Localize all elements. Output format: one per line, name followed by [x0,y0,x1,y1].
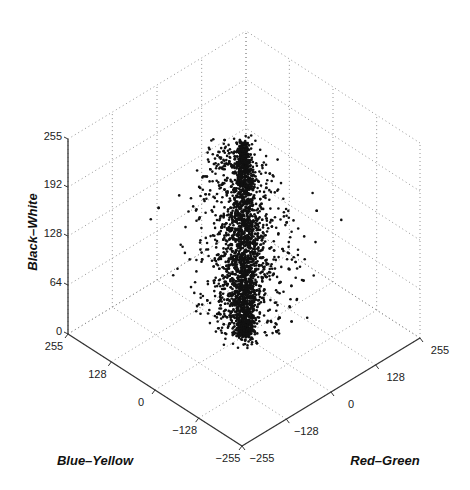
x-tick [376,365,379,369]
z-tick-label: 255 [44,130,62,142]
y-tick [65,334,68,338]
y-axis-label: Blue–Yellow [57,453,134,468]
x-tick-label: 0 [348,398,354,410]
x-tick [331,392,334,396]
z-tick-label: 64 [50,276,62,288]
z-tick-label: 192 [44,178,62,190]
y-tick [196,418,199,422]
y-tick-label: −255 [216,452,241,464]
x-tick [420,338,423,342]
x-axis-label: Red–Green [350,453,419,468]
x-tick [242,446,245,450]
y-tick-label: 0 [138,396,144,408]
z-tick-label: 128 [44,227,62,239]
x-tick-label: 255 [431,344,449,356]
floor-grid-line [111,254,289,362]
z-tick-label: 0 [56,325,62,337]
wall-grid-line [68,31,246,139]
wall-grid-line [246,128,420,240]
z-axis-label: Black–White [25,193,40,270]
data-points [150,134,343,349]
y-tick [239,446,242,450]
x-tick-label: −128 [294,425,319,437]
wall-grid-line [246,31,420,143]
x-tick [286,419,289,423]
y-tick [152,390,155,394]
z-tick [64,137,68,139]
x-tick-label: −255 [250,452,275,464]
y-tick-label: 128 [88,368,106,380]
y-tick [108,362,111,366]
x-tick-label: 128 [386,371,404,383]
scatter-3d-plot: 0641281922552551280−128−255−255−12801282… [0,0,470,490]
y-tick-label: −128 [172,424,197,436]
y-tick-label: 255 [45,340,63,352]
